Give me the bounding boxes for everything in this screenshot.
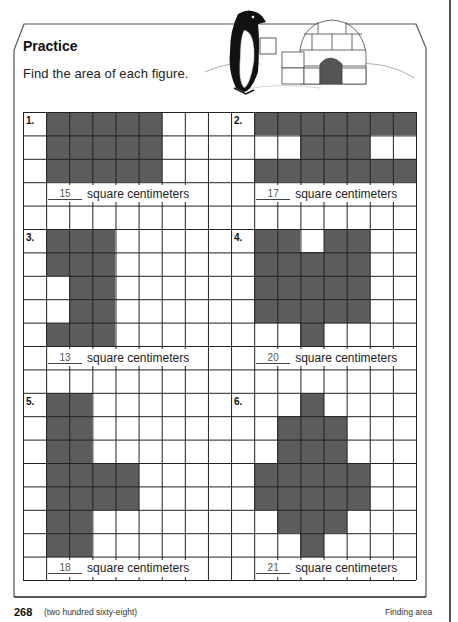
unit-text: square centimeters: [87, 561, 189, 575]
unit-text: square centimeters: [87, 351, 189, 365]
answer-blank[interactable]: 20: [256, 352, 290, 364]
answer-label: 15square centimeters: [48, 185, 189, 202]
unit-text: square centimeters: [295, 187, 397, 201]
answer-blank[interactable]: 18: [48, 562, 82, 574]
page-number: 268: [14, 606, 32, 618]
problem-number: 5.: [26, 396, 34, 407]
problem-number: 3.: [26, 232, 34, 243]
unit-text: square centimeters: [87, 187, 189, 201]
answer-label: 17square centimeters: [256, 185, 397, 202]
igloo-icon: [282, 20, 366, 84]
unit-text: square centimeters: [295, 561, 397, 575]
answer-blank[interactable]: 15: [48, 188, 82, 200]
answer-blank[interactable]: 21: [256, 562, 290, 574]
section-title: Finding area: [385, 607, 432, 617]
page-number-words: (two hundred sixty-eight): [44, 607, 137, 617]
page-title: Practice: [23, 38, 77, 54]
penguin-igloo-illustration: [200, 2, 428, 100]
answer-label: 21square centimeters: [256, 560, 397, 577]
answer-label: 20square centimeters: [256, 349, 397, 366]
unit-text: square centimeters: [295, 351, 397, 365]
problem-number: 2.: [234, 115, 242, 126]
answer-blank[interactable]: 17: [256, 188, 290, 200]
answer-blank[interactable]: 13: [48, 352, 82, 364]
instruction-text: Find the area of each figure.: [23, 66, 189, 81]
penguin-icon: [230, 10, 276, 94]
grid-lines: [23, 112, 417, 581]
answer-label: 18square centimeters: [48, 560, 189, 577]
problem-number: 1.: [26, 115, 34, 126]
problem-number: 6.: [234, 396, 242, 407]
problem-number: 4.: [234, 232, 242, 243]
page-edge-line: [449, 0, 451, 622]
answer-label: 13square centimeters: [48, 349, 189, 366]
centimeter-grid: 1.15square centimeters2.17square centime…: [23, 112, 416, 580]
